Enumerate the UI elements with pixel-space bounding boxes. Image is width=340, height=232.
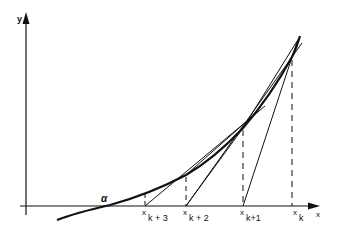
secant-method-diagram: y x α x k + 3 x k + 2 x k+1 x k	[0, 0, 340, 232]
svg-text:x: x	[142, 208, 146, 217]
function-curve	[57, 36, 300, 220]
label-x-k3: x k + 3	[142, 208, 168, 223]
y-axis-arrow-icon	[23, 12, 30, 24]
svg-text:x: x	[183, 208, 187, 217]
label-x-k2: x k + 2	[183, 208, 209, 223]
secant-line-6	[186, 114, 255, 175]
label-x-k: x k	[293, 208, 304, 223]
svg-text:k + 3: k + 3	[148, 213, 168, 223]
secant-line-4	[243, 38, 299, 128]
svg-text:k+1: k+1	[246, 213, 261, 223]
svg-text:x: x	[293, 208, 297, 217]
secant-line-3	[243, 42, 297, 206]
root-label: α	[101, 193, 108, 204]
svg-text:k + 2: k + 2	[189, 213, 209, 223]
label-x-k1: x k+1	[240, 208, 261, 223]
x-axis-label: x	[316, 210, 320, 219]
x-axis-arrow-icon	[308, 203, 320, 210]
svg-text:x: x	[240, 208, 244, 217]
svg-text:k: k	[299, 213, 304, 223]
y-axis-label: y	[17, 14, 22, 24]
